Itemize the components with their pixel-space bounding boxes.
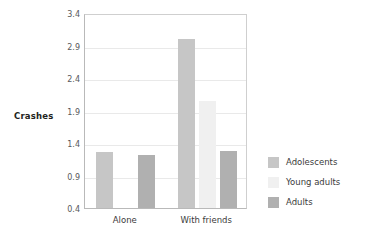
legend-label: Adults bbox=[286, 197, 313, 207]
bar bbox=[220, 151, 237, 208]
legend-swatch-icon bbox=[268, 157, 279, 168]
gridline bbox=[85, 48, 246, 49]
bar-chart: Crashes 0.40.91.41.92.42.93.4 AloneWith … bbox=[0, 0, 373, 238]
y-axis-tick-label: 0.4 bbox=[54, 205, 80, 214]
y-axis-tick-labels: 0.40.91.41.92.42.93.4 bbox=[52, 0, 80, 238]
legend-item: Adolescents bbox=[268, 152, 371, 172]
legend-item: Adults bbox=[268, 192, 371, 212]
y-axis-tick-label: 3.4 bbox=[54, 10, 80, 19]
y-axis-title: Crashes bbox=[14, 111, 54, 121]
gridline bbox=[85, 113, 246, 114]
y-axis-tick-label: 2.4 bbox=[54, 75, 80, 84]
bar bbox=[199, 101, 216, 208]
legend-label: Adolescents bbox=[286, 157, 337, 167]
legend-item: Young adults bbox=[268, 172, 371, 192]
x-axis-category-label: With friends bbox=[181, 215, 232, 225]
x-axis-category-label: Alone bbox=[113, 215, 137, 225]
gridline bbox=[85, 145, 246, 146]
legend: AdolescentsYoung adultsAdults bbox=[268, 152, 371, 212]
legend-swatch-icon bbox=[268, 197, 279, 208]
legend-swatch-icon bbox=[268, 177, 279, 188]
bar bbox=[178, 39, 195, 208]
y-axis-tick-label: 2.9 bbox=[54, 42, 80, 51]
y-axis-tick-label: 1.9 bbox=[54, 107, 80, 116]
bar bbox=[96, 152, 113, 208]
legend-label: Young adults bbox=[286, 177, 340, 187]
y-axis-tick-label: 1.4 bbox=[54, 140, 80, 149]
plot-area bbox=[84, 14, 247, 209]
y-axis-tick-label: 0.9 bbox=[54, 172, 80, 181]
gridline bbox=[85, 80, 246, 81]
bar bbox=[138, 155, 155, 208]
